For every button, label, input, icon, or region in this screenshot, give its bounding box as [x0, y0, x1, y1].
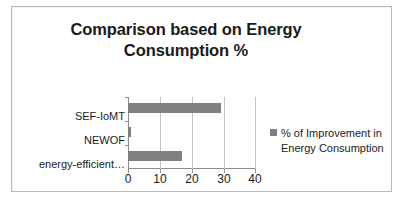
chart-figure: Comparison based on Energy Consumption %… — [0, 0, 407, 206]
legend-entry-label-line-2: Energy Consumption — [281, 141, 384, 156]
tick-label-10: 10 — [148, 173, 172, 185]
legend-swatch-icon — [270, 129, 277, 136]
tick-label-40: 40 — [243, 173, 267, 185]
category-label-energy-efficient: energy-efficient… — [39, 159, 125, 170]
chart-title-line-1: Comparison based on Energy — [36, 19, 336, 40]
tick-label-30: 30 — [212, 173, 236, 185]
chart-title-line-2: Consumption % — [36, 40, 336, 61]
category-label-sef-iomt: SEF-IoMT — [75, 111, 125, 122]
tick-label-0: 0 — [116, 173, 140, 185]
chart-legend: % of Improvement in Energy Consumption — [270, 126, 402, 156]
category-label-newof: NEWOF — [84, 135, 125, 146]
bar-track-newof — [128, 121, 256, 145]
value-axis-labels: 0 10 20 30 40 — [128, 173, 256, 189]
bar-sef-iomt[interactable] — [128, 103, 221, 113]
plot-area — [128, 97, 256, 169]
chart-frame: Comparison based on Energy Consumption %… — [11, 6, 392, 192]
bar-track-energy-efficient — [128, 145, 256, 169]
legend-entry-label-line-1: % of Improvement in — [281, 126, 384, 141]
chart-title: Comparison based on Energy Consumption % — [36, 19, 336, 60]
tick-label-20: 20 — [180, 173, 204, 185]
bar-track-sef-iomt — [128, 97, 256, 121]
bar-newof[interactable] — [128, 127, 131, 137]
legend-entry-label: % of Improvement in Energy Consumption — [281, 126, 384, 156]
category-axis-labels: SEF-IoMT NEWOF energy-efficient… — [12, 97, 125, 169]
bar-energy-efficient[interactable] — [128, 151, 182, 161]
